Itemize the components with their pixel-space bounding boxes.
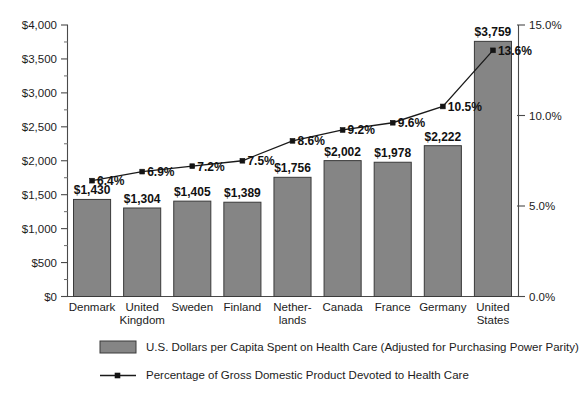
category-label: United — [126, 301, 159, 313]
line-marker — [140, 169, 145, 174]
category-label: lands — [279, 314, 307, 326]
legend-label-percent-series: Percentage of Gross Domestic Product Dev… — [146, 369, 469, 381]
legend-label-bar-series: U.S. Dollars per Capita Spent on Health … — [146, 341, 579, 353]
left-axis-tick-label: $1,500 — [22, 189, 57, 201]
category-label: France — [375, 301, 411, 313]
bar-value-label: $1,304 — [124, 192, 161, 206]
line-marker — [340, 128, 345, 133]
line-value-label: 10.5% — [448, 100, 482, 114]
line-value-label: 8.6% — [298, 134, 326, 148]
left-axis-tick-label: $500 — [31, 257, 57, 269]
category-label: Nether- — [273, 301, 312, 313]
bar-value-label: $2,222 — [424, 130, 461, 144]
legend-swatch-bar-series — [100, 341, 136, 353]
category-label: United — [476, 301, 509, 313]
category-label: Denmark — [69, 301, 116, 313]
left-axis-tick-label: $4,000 — [22, 19, 57, 31]
left-axis-tick-label: $3,000 — [22, 87, 57, 99]
right-axis-tick-label: 10.0% — [529, 110, 562, 122]
bar-value-label: $1,405 — [174, 185, 211, 199]
bar — [174, 201, 211, 296]
bar — [224, 202, 261, 296]
bar-value-label: $1,978 — [374, 146, 411, 160]
category-label: Kingdom — [119, 314, 164, 326]
category-label: States — [477, 314, 510, 326]
line-value-label: 9.6% — [398, 116, 426, 130]
health-care-spending-chart: $0$500$1,000$1,500$2,000$2,500$3,000$3,5… — [0, 0, 580, 401]
right-axis-tick-label: 0.0% — [529, 291, 555, 303]
line-marker — [190, 164, 195, 169]
bar-value-label: $3,759 — [475, 25, 512, 39]
line-value-label: 9.2% — [348, 123, 376, 137]
line-marker — [240, 158, 245, 163]
bar — [424, 146, 461, 297]
chart-container: $0$500$1,000$1,500$2,000$2,500$3,000$3,5… — [0, 0, 580, 401]
left-axis-tick-label: $0 — [44, 291, 57, 303]
bar — [474, 41, 511, 296]
line-value-label: 6.4% — [97, 174, 125, 188]
bar-value-label: $1,389 — [224, 186, 261, 200]
line-value-label: 7.5% — [247, 154, 275, 168]
bar — [124, 208, 161, 297]
line-marker — [390, 120, 395, 125]
category-label: Sweden — [171, 301, 213, 313]
bar-value-label: $2,002 — [324, 145, 361, 159]
bar-value-label: $1,756 — [274, 161, 311, 175]
right-axis-tick-label: 5.0% — [529, 200, 555, 212]
line-marker — [491, 48, 496, 53]
line-marker — [290, 138, 295, 143]
bar — [374, 162, 411, 296]
left-axis-tick-label: $3,500 — [22, 53, 57, 65]
line-value-label: 6.9% — [147, 165, 175, 179]
category-label: Finland — [224, 301, 262, 313]
legend-marker-percent-series — [115, 373, 120, 378]
left-axis-tick-label: $2,000 — [22, 155, 57, 167]
line-marker — [90, 178, 95, 183]
bar — [324, 161, 361, 297]
right-axis-tick-label: 15.0% — [529, 19, 562, 31]
left-axis-tick-label: $1,000 — [22, 223, 57, 235]
bar — [274, 177, 311, 296]
left-axis-tick-label: $2,500 — [22, 121, 57, 133]
line-marker — [440, 104, 445, 109]
line-value-label: 13.6% — [498, 44, 532, 58]
line-value-label: 7.2% — [197, 160, 225, 174]
bar — [74, 199, 111, 296]
category-label: Canada — [322, 301, 363, 313]
category-label: Germany — [419, 301, 467, 313]
